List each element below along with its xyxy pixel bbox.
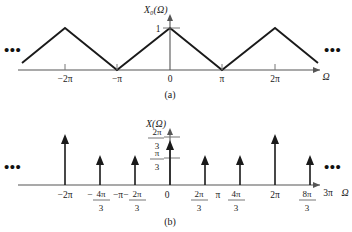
svg-text:3: 3 xyxy=(305,203,310,213)
panel-a-right-ellipsis: ••• xyxy=(324,42,341,58)
panel-a-x-label-2pi: 2π xyxy=(270,74,280,84)
svg-text:3: 3 xyxy=(197,203,202,213)
svg-text:3: 3 xyxy=(99,203,104,213)
panel-b-y-axis-arrowhead xyxy=(167,128,173,135)
panel-a-chart: X₀(Ω) 1 −2π −π 0 π 2π Ω ••• ••• (a) xyxy=(0,0,352,105)
svg-text:3: 3 xyxy=(135,203,140,213)
panel-a-caption: (a) xyxy=(164,89,175,101)
panel-b-x-label-zero: 0 xyxy=(165,190,170,200)
panel-b-x-label-2pi: 2π xyxy=(270,190,280,200)
panel-a-y-tick-label-1: 1 xyxy=(156,24,161,34)
panel-a-x-label-pi: π xyxy=(220,74,225,84)
panel-b-right-ellipsis: ••• xyxy=(324,159,341,175)
panel-a-y-axis-arrowhead xyxy=(167,14,173,21)
svg-text:−: − xyxy=(123,190,128,200)
panel-b-impulse-neg2pi xyxy=(61,134,69,185)
panel-b-impulse-zero xyxy=(166,140,174,185)
panel-b-impulse-2pi-3 xyxy=(201,155,209,185)
panel-a-x-axis-arrowhead xyxy=(313,67,320,73)
svg-text:8π: 8π xyxy=(302,189,312,199)
panel-b-x-label-neg4pi-3: − 4π 3 xyxy=(87,189,110,213)
panel-b-x-label-pi: π xyxy=(216,190,221,200)
panel-a-left-ellipsis: ••• xyxy=(4,42,21,58)
panel-b-chart: X(Ω) 2π 3 π 3 −2π − 4π 3 −π − 2π 3 0 xyxy=(0,110,352,232)
panel-b-x-label-neg2pi-3: − 2π 3 xyxy=(123,189,146,213)
panel-b-x-label-neg2pi: −2π xyxy=(58,190,73,200)
panel-b-x-axis-label: Ω xyxy=(341,187,348,198)
panel-b-x-label-3pi: 3π xyxy=(323,188,333,198)
panel-b-y-tick-pi-3-denominator: 3 xyxy=(155,162,160,172)
panel-b-y-tick-pi-3-numerator: π xyxy=(155,148,160,158)
panel-a-x-axis-label: Ω xyxy=(322,71,329,82)
panel-b-impulse-8pi-3 xyxy=(306,155,314,185)
svg-text:3: 3 xyxy=(234,203,239,213)
panel-b-y-tick-2pi-3-numerator: 2π xyxy=(152,127,162,137)
svg-text:4π: 4π xyxy=(96,189,106,199)
panel-b-caption: (b) xyxy=(164,216,176,228)
panel-a-x-label-zero: 0 xyxy=(168,74,173,84)
panel-b-x-label-negpi: −π xyxy=(113,190,123,200)
panel-b-impulse-neg4pi-3 xyxy=(96,155,104,185)
panel-b-x-label-4pi-3: 4π 3 xyxy=(228,189,245,213)
figure-container: X₀(Ω) 1 −2π −π 0 π 2π Ω ••• ••• (a) xyxy=(0,0,352,232)
panel-b-x-label-8pi-3: 8π 3 xyxy=(299,189,316,213)
panel-b-impulse-neg2pi-3 xyxy=(131,155,139,185)
panel-b-x-axis-arrowhead xyxy=(313,182,320,188)
svg-text:2π: 2π xyxy=(132,189,142,199)
svg-text:4π: 4π xyxy=(231,189,241,199)
panel-b-impulse-4pi-3 xyxy=(236,155,244,185)
panel-b-x-label-2pi-3: 2π 3 xyxy=(191,189,208,213)
panel-a-x-label-neg2pi: −2π xyxy=(58,74,73,84)
panel-b-y-tick-label-pi-3: π 3 xyxy=(150,148,164,172)
panel-a-x-label-negpi: −π xyxy=(112,74,122,84)
svg-text:2π: 2π xyxy=(194,189,204,199)
panel-a-y-axis-label: X₀(Ω) xyxy=(143,4,168,16)
panel-b-impulse-2pi xyxy=(271,134,279,185)
panel-b-left-ellipsis: ••• xyxy=(4,159,21,175)
svg-text:−: − xyxy=(87,190,92,200)
